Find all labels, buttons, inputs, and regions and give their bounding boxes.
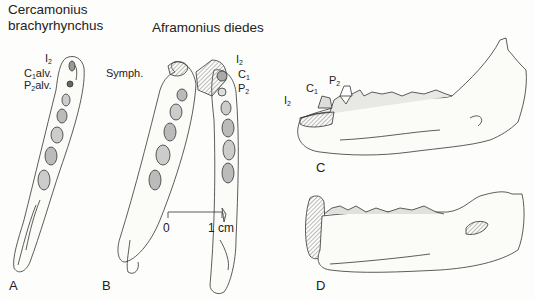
jaw-d-lateral: [306, 192, 525, 272]
species-title-a: Cercamonius brachyrhynchus: [8, 2, 103, 34]
panel-letter-a: A: [9, 278, 18, 293]
label-b-i2: I2: [236, 53, 243, 69]
label-c-c1: C1: [306, 82, 318, 98]
label-a-symph: Symph.: [106, 67, 143, 79]
label-c-p2: P2: [329, 74, 340, 90]
label-b-p2: P2: [238, 82, 249, 98]
label-a-i2: I2: [45, 52, 52, 68]
scale-bar-end: 1 cm: [208, 222, 234, 234]
species-a-genus: Cercamonius: [8, 2, 103, 18]
label-c-i2: I2: [284, 94, 291, 110]
panel-letter-b: B: [102, 278, 111, 293]
label-a-p2-alv: P2alv.: [24, 79, 52, 95]
species-a-epithet: brachyrhynchus: [8, 18, 103, 34]
jaw-b-occlusal: [118, 60, 238, 294]
species-title-b: Aframonius diedes: [152, 20, 264, 36]
jaw-c-lateral: [298, 38, 527, 155]
panel-letter-d: D: [316, 278, 325, 293]
panel-letter-c: C: [316, 160, 325, 175]
specimen-drawings: [0, 0, 534, 299]
scale-bar-start: 0: [163, 222, 170, 234]
